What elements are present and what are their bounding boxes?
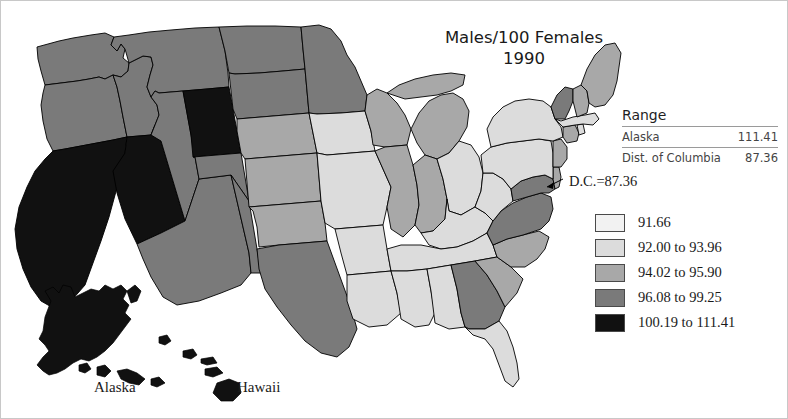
state-KS[interactable] — [245, 153, 321, 207]
state-TX[interactable] — [257, 241, 357, 357]
inset-aleutians-4 — [151, 377, 165, 387]
legend-swatch-4 — [595, 314, 625, 332]
inset-hawaii-molokai — [201, 357, 217, 365]
range-max-label: Alaska — [622, 130, 660, 144]
alaska-inset-label: Alaska — [94, 379, 136, 396]
legend-label-1: 92.00 to 93.96 — [638, 239, 722, 256]
inset-alaska-panhandle — [127, 285, 141, 303]
state-FL[interactable] — [465, 321, 519, 387]
inset-hawaii-kauai[interactable] — [159, 335, 171, 345]
range-max-value: 111.41 — [738, 130, 778, 144]
legend-row[interactable]: 92.00 to 93.96 — [595, 235, 735, 260]
hawaii-inset-label: Hawaii — [237, 379, 280, 396]
range-table-row-min: Dist. of Columbia 87.36 — [622, 147, 778, 168]
legend-swatch-0 — [595, 214, 625, 232]
inset-alaska[interactable] — [37, 285, 131, 375]
dc-annotation: D.C.=87.36 — [569, 173, 637, 190]
legend-swatch-2 — [595, 264, 625, 282]
legend-label-2: 94.02 to 95.90 — [638, 264, 722, 281]
state-AR[interactable] — [335, 225, 391, 275]
range-table-header: Range — [622, 107, 778, 126]
states-layer — [15, 25, 621, 401]
state-CT[interactable] — [563, 125, 579, 143]
state-OK[interactable] — [249, 201, 327, 247]
state-ND[interactable] — [219, 26, 305, 74]
choropleth-map-figure: Males/100 Females 1990 Range Alaska 111.… — [0, 0, 788, 419]
legend-row[interactable]: 100.19 to 111.41 — [595, 310, 735, 335]
legend-swatch-3 — [595, 289, 625, 307]
state-NJ[interactable] — [553, 139, 567, 167]
state-CA[interactable] — [15, 137, 127, 309]
title-line-1: Males/100 Females — [419, 27, 629, 48]
state-VT[interactable] — [551, 87, 573, 119]
map-legend: 91.6692.00 to 93.9694.02 to 95.9096.08 t… — [595, 210, 735, 335]
range-table-row-max: Alaska 111.41 — [622, 126, 778, 147]
inset-aleutians-2 — [97, 365, 111, 377]
legend-label-0: 91.66 — [638, 214, 671, 231]
range-min-label: Dist. of Columbia — [622, 151, 721, 165]
title-line-2: 1990 — [419, 48, 629, 69]
range-table: Range Alaska 111.41 Dist. of Columbia 87… — [622, 107, 778, 168]
legend-label-4: 100.19 to 111.41 — [638, 314, 735, 331]
legend-row[interactable]: 96.08 to 99.25 — [595, 285, 735, 310]
range-min-value: 87.36 — [745, 151, 778, 165]
legend-row[interactable]: 91.66 — [595, 210, 735, 235]
state-MN[interactable] — [301, 25, 367, 114]
legend-swatch-1 — [595, 239, 625, 257]
page-title: Males/100 Females 1990 — [419, 27, 629, 69]
inset-hawaii-maui — [205, 367, 223, 377]
state-DE[interactable] — [553, 167, 561, 189]
state-SD[interactable] — [229, 69, 309, 119]
state-IA[interactable] — [309, 111, 375, 155]
legend-row[interactable]: 94.02 to 95.90 — [595, 260, 735, 285]
legend-label-3: 96.08 to 99.25 — [638, 289, 722, 306]
inset-aleutians-1 — [79, 363, 91, 373]
state-NE[interactable] — [237, 113, 317, 159]
inset-hawaii-oahu — [183, 349, 197, 359]
